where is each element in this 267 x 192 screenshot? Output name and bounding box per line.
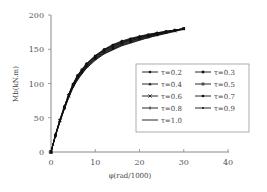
legend-label: τ=0.5 [214, 81, 235, 89]
legend: τ=0.2τ=0.3τ=0.4τ=0.5τ=0.6τ=0.7τ=0.8τ=0.9… [136, 64, 249, 132]
legend-label: τ=0.4 [161, 81, 182, 89]
moment-rotation-chart: 050100150200 010203040 Mb(kN.m) φ(rad/10… [0, 0, 267, 192]
x-tick-label: 30 [179, 158, 189, 167]
legend-label: τ=0.6 [161, 93, 182, 101]
y-tick-label: 100 [29, 80, 44, 89]
y-tick-label: 200 [29, 11, 44, 20]
x-tick-label: 10 [90, 158, 100, 167]
y-axis-title: Mb(kN.m) [12, 66, 20, 102]
y-tick-label: 50 [34, 114, 44, 123]
x-axis-title: φ(rad/1000) [109, 172, 152, 180]
legend-label: τ=0.8 [161, 105, 182, 113]
x-tick-label: 40 [223, 158, 233, 167]
y-tick-label: 0 [39, 148, 44, 157]
legend-label: τ=0.9 [214, 105, 235, 113]
legend-label: τ=0.3 [214, 69, 235, 77]
x-tick-label: 20 [134, 158, 144, 167]
legend-label: τ=1.0 [161, 117, 182, 125]
y-ticks: 050100150200 [29, 11, 51, 157]
legend-label: τ=0.2 [161, 69, 182, 77]
y-tick-label: 150 [29, 45, 44, 54]
x-tick-label: 0 [48, 158, 53, 167]
legend-label: τ=0.7 [214, 93, 235, 101]
